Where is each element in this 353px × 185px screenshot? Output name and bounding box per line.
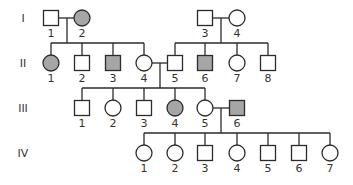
individual-number-label: 7 xyxy=(234,72,241,85)
male-square-icon xyxy=(261,146,276,161)
female-circle-icon xyxy=(197,100,213,116)
individual-number-label: 3 xyxy=(202,162,209,175)
individual-number-label: 5 xyxy=(172,72,179,85)
individual-symbols xyxy=(43,10,338,161)
generation-label: IV xyxy=(18,147,29,160)
female-circle-icon xyxy=(229,55,245,71)
affected-male-square-icon xyxy=(198,56,213,71)
female-circle-icon xyxy=(105,100,121,116)
female-circle-icon xyxy=(229,145,245,161)
male-square-icon xyxy=(292,146,307,161)
male-square-icon xyxy=(75,56,90,71)
female-circle-icon xyxy=(229,10,245,26)
generation-label: II xyxy=(20,57,27,70)
generation-label: I xyxy=(21,12,24,25)
male-square-icon xyxy=(75,101,90,116)
male-square-icon xyxy=(198,146,213,161)
individual-number-label: 1 xyxy=(48,72,55,85)
individual-number-label: 3 xyxy=(110,72,117,85)
male-square-icon xyxy=(137,101,152,116)
individual-number-label: 4 xyxy=(172,117,179,130)
male-square-icon xyxy=(44,11,59,26)
individual-number-label: 1 xyxy=(48,27,55,40)
individual-number-label: 6 xyxy=(234,117,241,130)
individual-number-label: 3 xyxy=(141,117,148,130)
individual-number-label: 2 xyxy=(79,27,86,40)
individual-number-label: 6 xyxy=(296,162,303,175)
affected-female-circle-icon xyxy=(43,55,59,71)
individual-number-label: 4 xyxy=(234,162,241,175)
individual-number-label: 4 xyxy=(141,72,148,85)
relationship-lines xyxy=(51,18,330,145)
female-circle-icon xyxy=(167,145,183,161)
individual-number-label: 5 xyxy=(202,117,209,130)
female-circle-icon xyxy=(136,145,152,161)
individual-number-label: 7 xyxy=(327,162,334,175)
individual-number-label: 2 xyxy=(172,162,179,175)
affected-male-square-icon xyxy=(106,56,121,71)
individual-number-label: 2 xyxy=(79,72,86,85)
individual-number-label: 1 xyxy=(141,162,148,175)
affected-male-square-icon xyxy=(230,101,245,116)
individual-number-label: 1 xyxy=(79,117,86,130)
female-circle-icon xyxy=(322,145,338,161)
individual-number-label: 5 xyxy=(265,162,272,175)
individual-number-label: 4 xyxy=(234,27,241,40)
generation-label: III xyxy=(18,102,28,115)
male-square-icon xyxy=(261,56,276,71)
female-circle-icon xyxy=(136,55,152,71)
male-square-icon xyxy=(198,11,213,26)
individual-number-label: 6 xyxy=(202,72,209,85)
individual-number-label: 8 xyxy=(265,72,272,85)
affected-female-circle-icon xyxy=(74,10,90,26)
individual-number-label: 2 xyxy=(110,117,117,130)
individual-number-label: 3 xyxy=(202,27,209,40)
affected-female-circle-icon xyxy=(167,100,183,116)
male-square-icon xyxy=(168,56,183,71)
